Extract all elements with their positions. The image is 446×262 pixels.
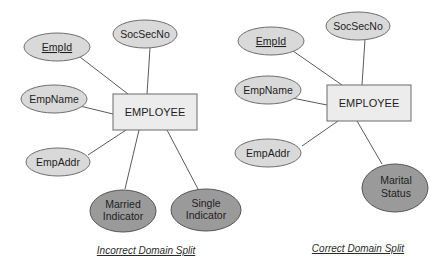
- caption-correct-domain-split: Correct Domain Split: [312, 243, 405, 254]
- entity-employee-label: EMPLOYEE: [339, 97, 400, 109]
- attribute-empname-label: EmpName: [29, 93, 79, 105]
- attribute-socsecno-label: SocSecNo: [120, 28, 170, 40]
- edge-marital-status: [357, 121, 382, 164]
- caption-incorrect-domain-split: Incorrect Domain Split: [97, 245, 197, 256]
- edge-empname: [292, 98, 327, 105]
- attribute-socsecno-label: SocSecNo: [333, 20, 383, 32]
- edge-empid: [293, 51, 342, 85]
- er-diagram-canvas: EMPLOYEE EmpId SocSecNo EmpName EmpAddr …: [0, 0, 446, 262]
- edge-socsecno: [147, 48, 150, 94]
- attribute-empaddr-label: EmpAddr: [36, 156, 80, 168]
- attribute-empaddr-label: EmpAddr: [246, 147, 290, 159]
- entity-employee-label: EMPLOYEE: [125, 106, 186, 118]
- diagram-incorrect-domain-split: EMPLOYEE EmpId SocSecNo EmpName EmpAddr …: [21, 20, 241, 256]
- edge-empaddr: [302, 121, 338, 146]
- attribute-marital-status-label-line2: Status: [381, 187, 411, 199]
- diagram-correct-domain-split: EMPLOYEE EmpId SocSecNo EmpName EmpAddr …: [235, 12, 428, 254]
- attribute-marital-status-label-line1: Marital: [380, 174, 412, 186]
- edge-empaddr: [88, 130, 126, 155]
- attribute-single-indicator-label-line1: Single: [191, 197, 220, 209]
- edge-empname: [80, 106, 113, 114]
- attribute-empid-label: EmpId: [256, 35, 287, 47]
- edge-single-indicator: [167, 130, 198, 189]
- edge-socsecno: [362, 39, 365, 85]
- attribute-empname-label: EmpName: [243, 84, 293, 96]
- edge-empid: [80, 57, 128, 94]
- attribute-single-indicator-label-line2: Indicator: [186, 209, 227, 221]
- attribute-married-indicator-label-line2: Indicator: [103, 210, 144, 222]
- attribute-married-indicator-label-line1: Married: [105, 198, 141, 210]
- edge-married-indicator: [125, 130, 139, 189]
- attribute-empid-label: EmpId: [42, 41, 73, 53]
